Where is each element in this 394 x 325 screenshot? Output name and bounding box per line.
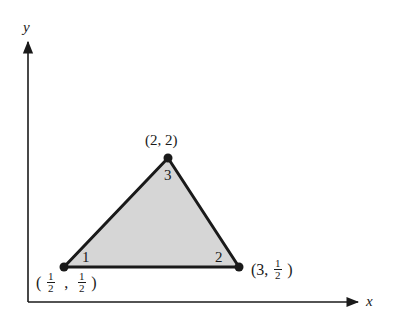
- y-denominator: 2: [78, 283, 86, 294]
- y-axis-label: y: [23, 20, 30, 35]
- y-denominator: 2: [274, 270, 282, 281]
- local-index-3: 3: [164, 168, 172, 183]
- triangle-element: [64, 158, 239, 267]
- node-3: [164, 154, 173, 163]
- vertex-3-coord-label: (2, 2): [145, 133, 178, 148]
- node-2: [235, 263, 244, 272]
- x-fraction: 1 2: [47, 271, 55, 294]
- close-paren: ): [91, 274, 96, 291]
- local-index-2: 2: [215, 250, 223, 265]
- open-paren: (: [36, 274, 41, 291]
- x-axis-label: x: [366, 294, 373, 309]
- comma: ,: [64, 274, 68, 291]
- open-paren-x: (3,: [251, 261, 268, 278]
- y-fraction: 1 2: [274, 258, 282, 281]
- x-denominator: 2: [47, 283, 55, 294]
- close-paren: ): [287, 261, 292, 278]
- vertex-1-coord-label: ( 1 2 , 1 2 ): [36, 271, 97, 294]
- y-fraction: 1 2: [78, 271, 86, 294]
- local-index-1: 1: [82, 250, 90, 265]
- vertex-2-coord-label: (3, 1 2 ): [251, 258, 293, 281]
